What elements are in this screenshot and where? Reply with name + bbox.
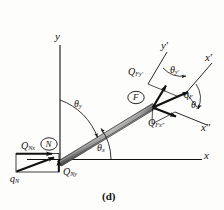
axis-label-y-prime: y' [161,40,168,51]
figure-caption: (d) [102,190,115,202]
axis-label-x: x [204,150,209,161]
force-label-q-n: qN [10,174,19,185]
axis-label-x-double-prime: x" [201,122,210,133]
force-label-q-ny-sub: Ny [70,170,77,177]
force-label-q-fy-prime-sub: Fy' [135,70,143,77]
force-label-q-n-sub: N [15,177,19,184]
local-axis-y-prime [148,52,167,84]
angle-label-theta-y-sub: y [79,102,82,109]
force-label-q-ny: QNy [63,167,77,178]
axis-label-y: y [55,31,60,42]
axis-label-x-prime: x' [205,52,212,63]
angle-label-theta-x-double-prime: θx" [191,100,201,111]
angle-label-theta-x: θx [97,143,105,154]
truss-element-force-diagram: y x y' x' x" N F QNx QNy qN QFy' QFx" qF… [0,0,224,210]
beam-member [58,104,157,167]
angle-label-theta-y: θy [74,99,82,110]
force-label-q-fx-double-prime-sub: Fx" [155,121,164,128]
node-label-n: N [46,140,52,149]
local-axis-x-prime [186,63,212,93]
force-vector-q-fx-double-prime [153,108,176,117]
angle-label-theta-y-prime-sub: y' [175,68,179,75]
angle-label-theta-x-double-prime-sub: x" [196,103,201,110]
node-label-f: F [133,93,139,102]
angle-label-theta-x-sub: x [102,146,105,153]
force-label-q-fx-double-prime: QFx" [148,118,164,129]
force-label-q-nx-sub: Nx [28,144,35,151]
force-label-q-nx: QNx [21,141,35,152]
force-label-q-fy-prime: QFy' [128,67,143,78]
angle-label-theta-y-prime: θy' [170,65,179,76]
